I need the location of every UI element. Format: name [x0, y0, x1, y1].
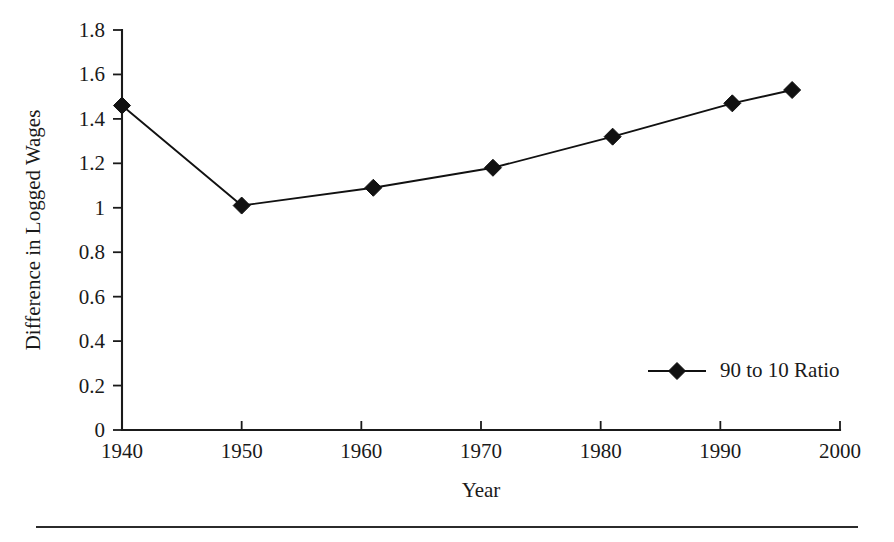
y-tick-label: 0.2: [79, 374, 105, 398]
line-chart: 00.20.40.60.811.21.41.61.8 1940195019601…: [0, 0, 894, 542]
data-point-marker: [604, 128, 621, 145]
chart-legend: 90 to 10 Ratio: [648, 358, 840, 382]
data-point-marker: [724, 95, 741, 112]
y-tick-label: 0.4: [79, 329, 106, 353]
y-tick-label: 1.8: [79, 18, 105, 42]
x-tick-label: 1960: [340, 439, 382, 463]
y-tick-label: 1.6: [79, 62, 105, 86]
legend-marker-icon: [669, 363, 686, 380]
y-axis-title: Difference in Logged Wages: [21, 110, 45, 351]
y-tick-label: 1: [95, 196, 106, 220]
y-tick-label: 1.2: [79, 151, 105, 175]
legend-label: 90 to 10 Ratio: [720, 358, 840, 382]
x-tick-label: 1950: [221, 439, 263, 463]
x-tick-label: 1980: [580, 439, 622, 463]
data-point-marker: [365, 179, 382, 196]
x-tick-label: 1990: [699, 439, 741, 463]
data-point-marker: [484, 159, 501, 176]
x-tick-label: 1940: [101, 439, 143, 463]
y-axis-ticks: 00.20.40.60.811.21.41.61.8: [79, 18, 122, 442]
x-tick-label: 1970: [460, 439, 502, 463]
series-90-to-10-ratio: [114, 82, 801, 215]
series-polyline: [122, 90, 792, 206]
y-tick-label: 1.4: [79, 107, 106, 131]
y-tick-label: 0.8: [79, 240, 105, 264]
x-tick-label: 2000: [819, 439, 861, 463]
x-axis-title: Year: [462, 478, 501, 502]
y-tick-label: 0.6: [79, 285, 105, 309]
x-axis-ticks: 1940195019601970198019902000: [101, 421, 861, 463]
data-point-marker: [784, 82, 801, 99]
figure-container: 00.20.40.60.811.21.41.61.8 1940195019601…: [0, 0, 894, 542]
